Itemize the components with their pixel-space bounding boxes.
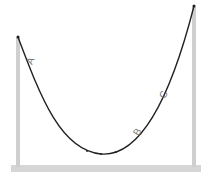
label-a: A <box>24 55 37 66</box>
right-pole <box>192 6 196 167</box>
label-b: B <box>131 126 144 138</box>
ground-base <box>11 165 201 172</box>
rope-nodes <box>17 5 196 155</box>
left-pole <box>16 37 20 167</box>
catenary-diagram: A B C <box>0 0 208 175</box>
label-c: C <box>157 89 170 100</box>
hanging-rope <box>18 6 194 154</box>
